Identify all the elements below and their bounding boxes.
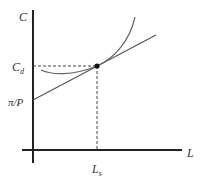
x-axis-label: L <box>186 146 194 160</box>
convex-curve <box>41 17 135 74</box>
ls-label: Ls <box>91 162 102 178</box>
cd-label: Cd <box>12 60 25 76</box>
cost-labor-diagram: C L Cd π/P Ls <box>0 0 206 188</box>
y-axis-label: C <box>19 10 28 24</box>
pi-over-p-label: π/P <box>8 96 24 108</box>
tangency-point <box>94 63 99 68</box>
